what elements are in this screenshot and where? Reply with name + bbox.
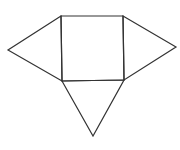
square-face bbox=[61, 16, 124, 81]
left-triangle-face bbox=[8, 16, 62, 81]
geometric-net-figure bbox=[0, 0, 180, 150]
right-triangle-face bbox=[123, 16, 176, 80]
diagram-canvas bbox=[0, 0, 180, 150]
bottom-triangle-face bbox=[62, 80, 124, 136]
